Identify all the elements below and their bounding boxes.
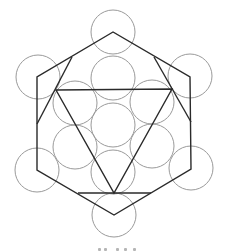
metatrons-cube-diagram <box>0 0 225 251</box>
circles-group <box>15 10 213 237</box>
circle-bottom-inner <box>91 150 135 194</box>
circle-top-inner <box>91 56 135 100</box>
circle-upper-left-inner <box>53 81 97 125</box>
circle-upper-right-inner <box>130 80 174 124</box>
lines-group <box>37 32 191 215</box>
circle-lower-left-inner <box>53 125 97 169</box>
inner-triangle <box>56 89 172 193</box>
circle-lower-right-inner <box>130 124 174 168</box>
circle-center <box>91 103 135 147</box>
outer-hexagon <box>37 32 191 215</box>
figure-caption-cutoff <box>0 244 225 251</box>
